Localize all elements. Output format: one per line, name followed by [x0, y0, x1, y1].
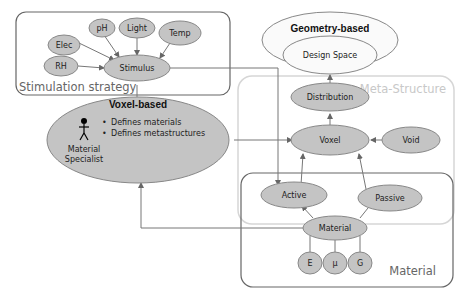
- node-voxel-label: Voxel: [319, 136, 340, 145]
- stimulation-strategy-label: Stimulation strategy: [19, 80, 137, 94]
- bullet-dot-2: •: [102, 129, 107, 138]
- node-ph-label: pH: [96, 24, 107, 33]
- actor-label-1: Material: [68, 145, 101, 154]
- node-active-label: Active: [282, 191, 307, 200]
- bullet-2: Defines metastructures: [111, 129, 205, 138]
- active-to-voxel: [301, 154, 303, 185]
- voxel-based-title: Voxel-based: [109, 99, 167, 110]
- node-e-label: E: [307, 259, 312, 268]
- node-void-label: Void: [402, 136, 419, 145]
- node-passive-label: Passive: [375, 194, 405, 203]
- node-g-label: G: [357, 259, 363, 268]
- node-design-space-label: Design Space: [303, 51, 358, 60]
- node-elec-label: Elec: [56, 41, 73, 50]
- node-stimulus-label: Stimulus: [120, 64, 155, 73]
- node-rh-label: RH: [55, 62, 67, 71]
- node-distribution-label: Distribution: [307, 93, 354, 102]
- material-group-label: Material: [389, 264, 436, 278]
- passive-to-voxel: [359, 154, 366, 189]
- node-mu-label: μ: [332, 259, 337, 268]
- node-material-label: Material: [319, 224, 352, 233]
- node-temp-label: Temp: [168, 29, 190, 38]
- meta-structure-label: Meta-Structure: [360, 82, 446, 96]
- node-light-label: Light: [127, 24, 147, 33]
- bullet-1: Defines materials: [111, 118, 181, 127]
- bullet-dot-1: •: [102, 118, 107, 127]
- material-to-passive: [360, 208, 368, 218]
- geometry-based-title: Geometry-based: [291, 23, 370, 34]
- actor-label-2: Specialist: [65, 155, 103, 164]
- diagram-canvas: Meta-Structure Material Stimulation stra…: [0, 0, 463, 293]
